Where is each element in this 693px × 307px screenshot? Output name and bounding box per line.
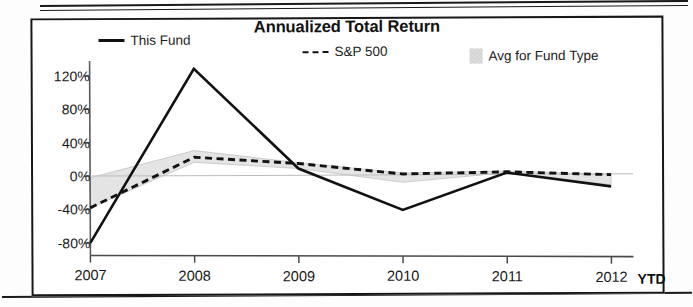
- x-axis-tick-2010: 2010: [387, 268, 419, 284]
- x-axis-tick-2009: 2009: [283, 268, 315, 284]
- x-axis-tick-labels: 200720082009201020112012: [32, 18, 662, 295]
- scanned-page: Annualized Total Return This Fund S&P 50…: [0, 0, 693, 307]
- x-axis-tick-2008: 2008: [179, 268, 211, 284]
- chart-plot-area: Annualized Total Return This Fund S&P 50…: [32, 18, 662, 295]
- x-axis-tick-2012: 2012: [595, 269, 627, 285]
- x-axis-ytd-label: YTD: [638, 270, 666, 286]
- chart-frame: Annualized Total Return This Fund S&P 50…: [30, 16, 664, 297]
- x-axis-tick-2011: 2011: [492, 268, 523, 284]
- x-axis-tick-2007: 2007: [74, 267, 106, 283]
